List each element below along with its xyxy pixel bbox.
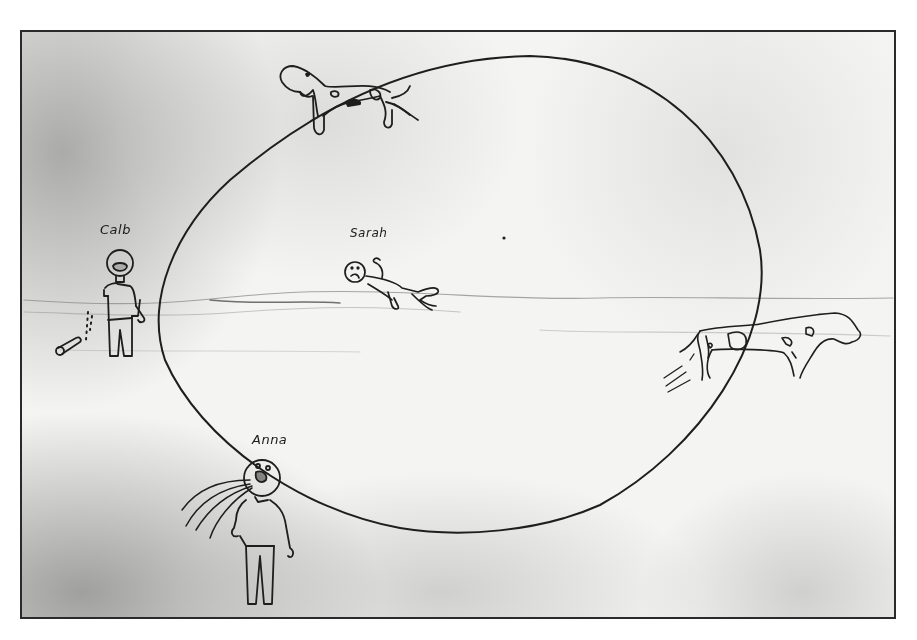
sarah-drawing [345, 258, 438, 310]
breath-lines [182, 480, 252, 538]
sarah-label: Sarah [350, 226, 387, 240]
right-cow-drawing [664, 313, 860, 392]
hand-drawn-sketch [0, 0, 917, 640]
horizon-lines [24, 291, 893, 352]
pencil-dot [502, 236, 505, 239]
calb-label: Calb [100, 222, 131, 237]
anna-drawing [182, 460, 293, 604]
bottle-icon [56, 337, 81, 355]
orbit-ellipse [159, 56, 762, 533]
motion-lines [664, 354, 694, 392]
top-cow-drawing [280, 66, 418, 134]
dotted-trail [86, 312, 92, 340]
sketch-canvas: Calb Sarah Anna [0, 0, 917, 640]
anna-label: Anna [252, 432, 287, 447]
